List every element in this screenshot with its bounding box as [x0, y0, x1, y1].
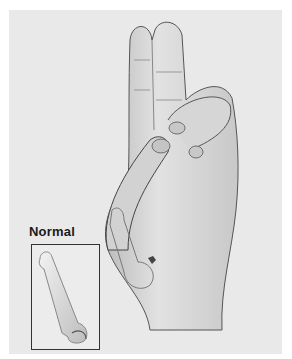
inset-label: Normal: [29, 224, 75, 239]
normal-bone-inset: [31, 244, 100, 350]
normal-metacarpal-bone-icon: [32, 245, 98, 348]
